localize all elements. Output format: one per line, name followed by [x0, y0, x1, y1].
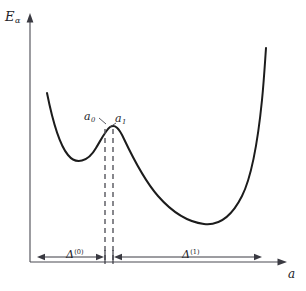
annotation-delta0-superscript: (0) [74, 248, 84, 256]
delta0-left-arrowhead [37, 254, 45, 260]
delta1-left-arrowhead [114, 254, 122, 260]
annotation-delta1: Δ(1) [182, 249, 200, 260]
y-axis-arrowhead [27, 13, 34, 23]
annotation-delta1-base: Δ [182, 248, 190, 261]
annotation-a0-base: a [84, 110, 91, 123]
delta0-right-arrowhead [96, 254, 104, 260]
y-axis-label: Eα [5, 10, 20, 25]
annotation-delta1-superscript: (1) [190, 248, 200, 256]
energy-curve-path [47, 48, 266, 224]
delta1-right-arrowhead [254, 254, 262, 260]
x-axis-arrowhead [278, 259, 288, 266]
annotation-a1-base: a [115, 112, 122, 125]
annotation-a0: a0 [84, 111, 95, 124]
annotation-a1-subscript: 1 [122, 118, 127, 126]
energy-curve-figure: Eα a a0 a1 Δ(0) Δ(1) [0, 0, 306, 291]
y-axis-label-subscript: α [15, 16, 21, 25]
y-axis-label-base: E [5, 9, 15, 24]
x-axis-label-base: a [288, 267, 295, 281]
leader-a0 [99, 118, 106, 124]
annotation-a0-subscript: 0 [91, 116, 96, 124]
annotation-a1: a1 [115, 113, 126, 126]
annotation-delta0: Δ(0) [66, 249, 84, 260]
figure-canvas [0, 0, 306, 291]
annotation-delta0-base: Δ [66, 248, 74, 261]
x-axis-label: a [288, 268, 295, 280]
